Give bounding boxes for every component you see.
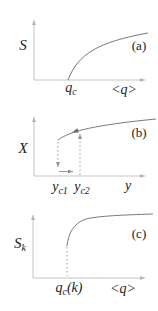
figure-three-panel-plot: S (a) qc <q> X (b) yc1 yc2 y Sk (c) qc(k… — [0, 0, 158, 311]
panel-c-xlabel-avg-q: <q> — [110, 281, 136, 296]
panel-a-xlabel-avg-q: <q> — [111, 82, 137, 97]
panel-a-plot: S (a) qc <q> — [0, 0, 158, 100]
panel-b-tick-yc2: yc2 — [72, 179, 90, 196]
panel-a-tick-qc: qc — [65, 80, 77, 97]
panel-b-tick-yc1-sub: c1 — [58, 185, 67, 196]
panel-b-letter: (b) — [131, 125, 146, 140]
panel-c-tick-qck-rest: (k) — [67, 280, 83, 296]
panel-a-letter: (a) — [132, 38, 146, 53]
panel-c-ylabel-sub: k — [22, 242, 27, 253]
panel-c-tick-qck-main: q — [56, 280, 63, 295]
panel-c-plot: Sk (c) qc(k) <q> — [0, 200, 158, 311]
panel-b-plot: X (b) yc1 yc2 y — [0, 100, 158, 200]
panel-a-tick-qc-sub: c — [72, 86, 77, 97]
panel-b-ylabel: X — [17, 140, 28, 156]
panel-b-xlabel-y: y — [123, 178, 132, 193]
panel-a-ylabel: S — [19, 37, 27, 53]
panel-a-tick-qc-main: q — [65, 80, 72, 95]
panel-c-tick-qck: qc(k) — [56, 280, 83, 297]
panel-c-letter: (c) — [132, 226, 146, 241]
panel-b-curve-left-arrowhead-icon — [71, 128, 79, 135]
panel-b-tick-yc2-sub: c2 — [80, 185, 89, 196]
panel-b-tick-yc1: yc1 — [50, 179, 68, 196]
panel-c-ylabel: Sk — [14, 235, 27, 253]
